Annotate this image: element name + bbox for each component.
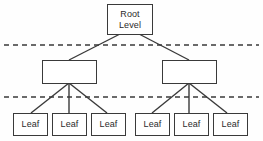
node-mid-left bbox=[42, 60, 97, 84]
node-root: Root Level bbox=[107, 4, 153, 35]
node-leaf-1-label: Leaf bbox=[22, 119, 40, 129]
node-leaf-2: Leaf bbox=[52, 113, 87, 136]
node-leaf-6-label: Leaf bbox=[222, 119, 240, 129]
node-root-label-line2: Level bbox=[119, 20, 141, 30]
node-mid-right bbox=[162, 60, 217, 84]
node-leaf-4-label: Leaf bbox=[144, 119, 162, 129]
node-root-label-line1: Root bbox=[120, 9, 139, 19]
node-leaf-3-label: Leaf bbox=[100, 119, 118, 129]
node-leaf-6: Leaf bbox=[213, 113, 248, 136]
node-leaf-3: Leaf bbox=[91, 113, 126, 136]
node-leaf-1: Leaf bbox=[13, 113, 48, 136]
node-leaf-4: Leaf bbox=[135, 113, 170, 136]
edge-mid-right-to-leaf-4 bbox=[152, 83, 189, 113]
edge-mid-left-to-leaf-3 bbox=[69, 83, 107, 113]
node-leaf-5: Leaf bbox=[174, 113, 209, 136]
edge-root-to-mid-left bbox=[69, 34, 120, 60]
edge-root-to-mid-right bbox=[139, 34, 189, 60]
node-leaf-2-label: Leaf bbox=[61, 119, 79, 129]
tree-diagram: Root Level Leaf Leaf Leaf Leaf Leaf Leaf bbox=[0, 0, 263, 141]
edge-mid-left-to-leaf-1 bbox=[31, 83, 69, 113]
edge-mid-right-to-leaf-6 bbox=[189, 83, 227, 113]
node-leaf-5-label: Leaf bbox=[183, 119, 201, 129]
